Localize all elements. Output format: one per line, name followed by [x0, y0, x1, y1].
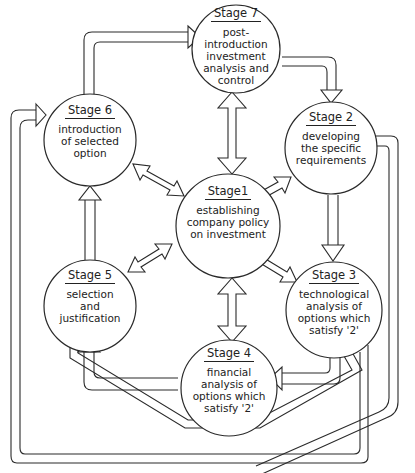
stage2-title: Stage 2 — [306, 110, 356, 126]
stage5-title: Stage 5 — [65, 268, 115, 284]
stage4-node: Stage 4 financial analysis of options wh… — [180, 346, 278, 414]
stage5-description: selection and justification — [42, 288, 138, 324]
stage6-node: Stage 6 introduction of selected option — [42, 103, 138, 159]
stage3-node: Stage 3 technological analysis of option… — [284, 268, 384, 336]
stage4-title: Stage 4 — [204, 346, 254, 362]
arrow-stage7-to-stage2 — [282, 57, 342, 103]
stage2-description: developing the specific requirements — [283, 130, 379, 166]
stage7-node: Stage 7 post- introduction investment an… — [190, 6, 282, 86]
arrow-stage3-to-stage4 — [270, 357, 340, 390]
stage4-description: financial analysis of options which sati… — [180, 366, 278, 414]
stage2-node: Stage 2 developing the specific requirem… — [283, 110, 379, 166]
double-arrow-stage1-stage4 — [218, 278, 246, 342]
stage3-description: technological analysis of options which … — [284, 288, 384, 336]
stage5-node: Stage 5 selection and justification — [42, 268, 138, 324]
stage1-title: Stage1 — [205, 184, 252, 200]
arrow-stage5-to-stage6 — [79, 186, 101, 260]
stage6-description: introduction of selected option — [42, 123, 138, 159]
stage1-description: establishing company policy on investmen… — [176, 204, 280, 240]
arrow-stage2-to-stage3 — [322, 195, 344, 261]
arrow-stage6-to-stage7 — [84, 26, 200, 96]
stage1-node: Stage1 establishing company policy on in… — [176, 184, 280, 240]
double-arrow-stage1-stage7 — [218, 92, 246, 174]
stage7-description: post- introduction investment analysis a… — [190, 26, 282, 86]
stage3-title: Stage 3 — [309, 268, 359, 284]
stage6-title: Stage 6 — [65, 103, 115, 119]
stage7-title: Stage 7 — [211, 6, 261, 22]
